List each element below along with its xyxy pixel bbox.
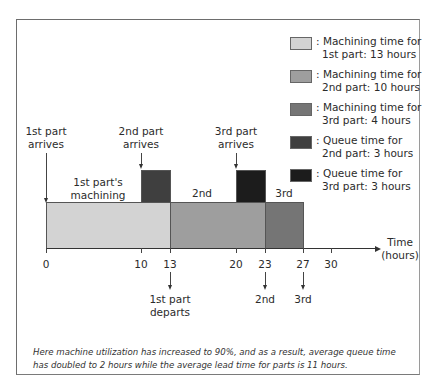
- time-axis-line: [46, 248, 376, 249]
- arrow-down-icon: [301, 285, 305, 290]
- second-part-machining-label: 2nd: [190, 187, 214, 200]
- tick-13: [170, 248, 171, 253]
- bar-queue-2nd: [141, 170, 171, 203]
- legend-item-machining-3rd: : Machining time for3rd part: 4 hours: [290, 101, 425, 129]
- legend-text: 3rd part: 4 hours: [316, 114, 421, 127]
- legend-swatch-machining-3rd: [290, 103, 312, 116]
- legend-item-queue-3rd: : Queue time for3rd part: 3 hours: [290, 167, 425, 195]
- legend-swatch-machining-2nd: [290, 70, 312, 83]
- arrow-down-icon: [168, 285, 172, 290]
- tick-label: 10: [131, 258, 151, 271]
- first-part-departs-label: 1st part departs: [146, 293, 194, 319]
- label-line: machining: [68, 189, 128, 202]
- tick-label: 30: [321, 258, 341, 271]
- legend-item-machining-2nd: : Machining time for2nd part: 10 hours: [290, 68, 425, 96]
- tick-10: [141, 248, 142, 253]
- legend-text: : Machining time for: [316, 68, 421, 81]
- first-part-machining-label: 1st part's machining: [68, 176, 128, 202]
- bar-queue-3rd: [236, 170, 266, 203]
- legend-swatch-queue-3rd: [290, 169, 312, 182]
- label-line: 1st part: [146, 293, 194, 306]
- arrow-down-icon: [234, 164, 238, 169]
- tick-20: [236, 248, 237, 253]
- third-part-arrives-label: 3rd part arrives: [212, 125, 260, 151]
- legend-text: : Machining time for: [316, 101, 421, 114]
- legend-text: : Queue time for: [316, 167, 411, 180]
- legend-text: 2nd part: 3 hours: [316, 147, 413, 160]
- bar-machining-3rd: [265, 202, 304, 249]
- first-part-arrives-label: 1st part arrives: [22, 125, 70, 151]
- figure-caption: Here machine utilization has increased t…: [33, 346, 396, 371]
- legend-item-queue-2nd: : Queue time for2nd part: 3 hours: [290, 134, 425, 162]
- label-line: 2nd part: [117, 125, 165, 138]
- third-departs-arrow-line: [303, 272, 304, 285]
- tick-label: 27: [293, 258, 313, 271]
- third-part-departs-label: 3rd: [291, 293, 315, 306]
- caption-line: Here machine utilization has increased t…: [33, 346, 396, 359]
- label-line: arrives: [117, 138, 165, 151]
- tick-label: 0: [36, 258, 56, 271]
- axis-title: Time (hours): [378, 236, 422, 262]
- label-line: departs: [146, 306, 194, 319]
- second-part-departs-label: 2nd: [253, 293, 277, 306]
- first-arrives-arrow-line: [46, 153, 47, 198]
- axis-title-line: (hours): [378, 249, 422, 262]
- legend-text: 1st part: 13 hours: [316, 48, 421, 61]
- legend-text: 3rd part: 3 hours: [316, 180, 411, 193]
- second-part-arrives-label: 2nd part arrives: [117, 125, 165, 151]
- axis-title-line: Time: [378, 236, 422, 249]
- tick-27: [303, 248, 304, 253]
- label-line: arrives: [22, 138, 70, 151]
- tick-label: 13: [160, 258, 180, 271]
- label-line: 1st part's: [68, 176, 128, 189]
- bar-machining-1st: [46, 202, 171, 249]
- legend-item-machining-1st: : Machining time for1st part: 13 hours: [290, 35, 425, 63]
- label-line: arrives: [212, 138, 260, 151]
- arrow-down-icon: [139, 164, 143, 169]
- legend-text: 2nd part: 10 hours: [316, 81, 421, 94]
- second-departs-arrow-line: [265, 272, 266, 285]
- arrow-down-icon: [263, 285, 267, 290]
- tick-label: 20: [226, 258, 246, 271]
- legend-swatch-queue-2nd: [290, 136, 312, 149]
- bar-machining-2nd: [170, 202, 266, 249]
- label-line: 1st part: [22, 125, 70, 138]
- third-part-machining-label: 3rd: [272, 187, 296, 200]
- tick-30: [331, 248, 332, 253]
- legend-text: : Machining time for: [316, 35, 421, 48]
- tick-23: [265, 248, 266, 253]
- first-departs-arrow-line: [170, 272, 171, 285]
- label-line: 3rd part: [212, 125, 260, 138]
- tick-label: 23: [255, 258, 275, 271]
- legend-swatch-machining-1st: [290, 37, 312, 50]
- caption-line: has doubled to 2 hours while the average…: [33, 359, 396, 372]
- legend-text: : Queue time for: [316, 134, 413, 147]
- tick-0: [46, 248, 47, 253]
